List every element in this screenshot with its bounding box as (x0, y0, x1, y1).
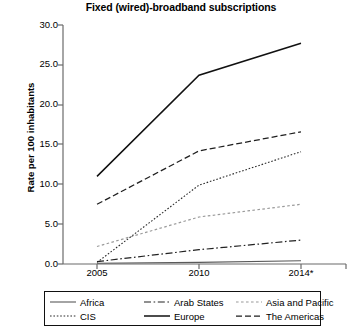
legend-swatch-solid-thin-icon (49, 297, 77, 307)
legend-label: Arab States (171, 297, 224, 308)
plot-canvas (0, 14, 362, 286)
series-line-europe (97, 43, 301, 176)
legend-swatch-dotted-light-icon (235, 297, 263, 307)
x-axis-tick-labels: 2005 2010 2014* (0, 267, 362, 283)
y-axis-ticks (58, 25, 63, 264)
legend-swatch-dash-dot-icon (143, 297, 171, 307)
x-tick-label: 2010 (169, 267, 229, 278)
legend-item-asia-and-pacific[interactable]: Asia and Pacific (235, 295, 318, 309)
legend-item-arab-states[interactable]: Arab States (143, 295, 235, 309)
plot-area: 30.0 25.0 20.0 15.0 10.0 5.0 0.0 Rate pe… (0, 14, 362, 286)
series-line-arab-states (97, 240, 301, 262)
legend-swatch-dotted-icon (49, 311, 77, 321)
legend-swatch-dashed-icon (235, 311, 263, 321)
series-line-asia-and-pacific (97, 204, 301, 246)
legend-label: Europe (171, 311, 205, 322)
legend-label: The Americas (263, 311, 324, 322)
legend-swatch-solid-thick-icon (143, 311, 171, 321)
series-line-the-americas (97, 132, 301, 205)
legend-row: CIS Europe The Americas (49, 309, 318, 323)
legend-item-europe[interactable]: Europe (143, 309, 235, 323)
x-tick-label: 2005 (67, 267, 127, 278)
legend-label: Africa (77, 297, 104, 308)
chart-figure: Fixed (wired)-broadband subscriptions 30… (0, 0, 362, 335)
legend-label: CIS (77, 311, 96, 322)
chart-title: Fixed (wired)-broadband subscriptions (0, 1, 362, 14)
legend-item-the-americas[interactable]: The Americas (235, 309, 318, 323)
series-line-africa (97, 261, 301, 263)
legend-row: Africa Arab States Asia and Pacific (49, 295, 318, 309)
legend-label: Asia and Pacific (263, 297, 334, 308)
chart-legend: Africa Arab States Asia and Pacific (44, 291, 321, 326)
x-tick-label: 2014* (271, 267, 331, 278)
series-line-cis (97, 152, 301, 263)
legend-item-africa[interactable]: Africa (49, 295, 143, 309)
legend-item-cis[interactable]: CIS (49, 309, 143, 323)
